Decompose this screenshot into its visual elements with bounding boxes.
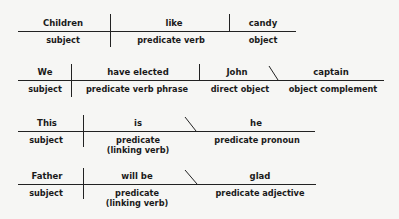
word-predicate-adjective: glad [250,171,271,182]
word-verb: will be [121,171,152,182]
label-predicate-adjective: predicate adjective [215,188,304,199]
label-subject: subject [29,188,63,199]
word-subject: Father [31,171,62,182]
label-predicate-sub: (linking verb) [106,198,169,209]
complement-slash [0,0,399,219]
